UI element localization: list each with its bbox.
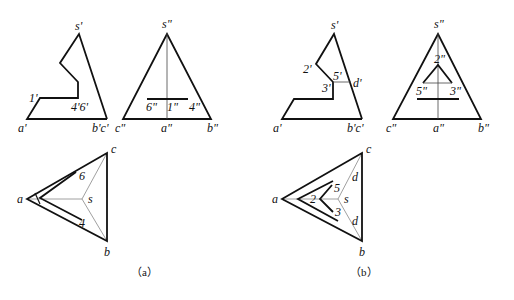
side-view-triangle: [393, 34, 481, 119]
label-s-dprime: s": [162, 17, 173, 31]
caption-a: （a）: [131, 266, 158, 278]
label-a-dprime: a": [161, 121, 173, 135]
label-4-dprime: 4": [189, 100, 201, 114]
label-1-dprime: 1": [167, 100, 179, 114]
label-a-prime: a': [18, 121, 27, 135]
label-4-6-prime: 4'6': [71, 100, 89, 114]
label-b: b: [104, 245, 110, 259]
label-b-dprime: b": [478, 121, 490, 135]
label-d-upper: d: [352, 170, 359, 184]
base-triangle: [27, 153, 107, 241]
panel-b-front-view: s' 2' 5' 3' d' a' b'c': [273, 18, 364, 135]
label-bc-prime: b'c': [347, 121, 364, 135]
label-a: a: [272, 192, 278, 206]
label-6: 6: [79, 169, 85, 183]
label-s-dprime: s": [434, 17, 445, 31]
label-s-prime: s': [75, 19, 83, 33]
label-c: c: [366, 142, 372, 156]
label-d-lower: d: [352, 214, 359, 228]
panel-b: s' 2' 5' 3' d' a' b'c' s" 2" 5" 3" c" a"…: [272, 17, 490, 278]
panel-a-side-view: s" 6" 1" 4" c" a" b": [115, 17, 219, 135]
inner-triangle: [423, 65, 452, 83]
label-a-dprime: a": [433, 121, 445, 135]
pyramid-projection-diagram: s' 1' 4'6' a' b'c' s" 6" 1" 4" c" a" b": [0, 0, 514, 300]
label-a-prime: a': [273, 121, 282, 135]
label-4: 4: [79, 216, 85, 230]
panel-a-top-view: c b a s 6 4: [17, 142, 117, 259]
label-2: 2: [310, 192, 316, 206]
label-2-prime: 2': [303, 62, 312, 76]
panel-b-side-view: s" 2" 5" 3" c" a" b": [386, 17, 490, 135]
label-3-prime: 3': [321, 81, 331, 95]
panel-a: s' 1' 4'6' a' b'c' s" 6" 1" 4" c" a" b": [17, 17, 219, 278]
inner-notch-outline: [320, 185, 333, 212]
panel-b-top-view: c b a s 2 5 3 d d: [272, 142, 372, 259]
label-c-dprime: c": [386, 121, 397, 135]
label-3-dprime: 3": [449, 84, 462, 98]
label-5-prime: 5': [333, 69, 342, 83]
label-3: 3: [334, 205, 341, 219]
label-5: 5: [334, 181, 340, 195]
label-6-dprime: 6": [146, 100, 158, 114]
label-5-dprime: 5": [416, 84, 428, 98]
label-b-dprime: b": [207, 121, 219, 135]
label-a: a: [17, 192, 23, 206]
caption-b: （b）: [350, 266, 378, 278]
label-2-dprime: 2": [434, 52, 446, 66]
label-s: s: [88, 192, 93, 206]
label-c: c: [111, 142, 117, 156]
front-view-outline: [282, 34, 362, 119]
label-s: s: [344, 192, 349, 206]
label-1-prime: 1': [29, 91, 38, 105]
label-c-dprime: c": [115, 121, 126, 135]
front-view-outline: [27, 34, 107, 119]
label-d-prime: d': [353, 76, 362, 90]
label-bc-prime: b'c': [92, 121, 109, 135]
label-b: b: [359, 245, 365, 259]
panel-a-front-view: s' 1' 4'6' a' b'c': [18, 19, 109, 135]
label-s-prime: s': [331, 18, 339, 32]
